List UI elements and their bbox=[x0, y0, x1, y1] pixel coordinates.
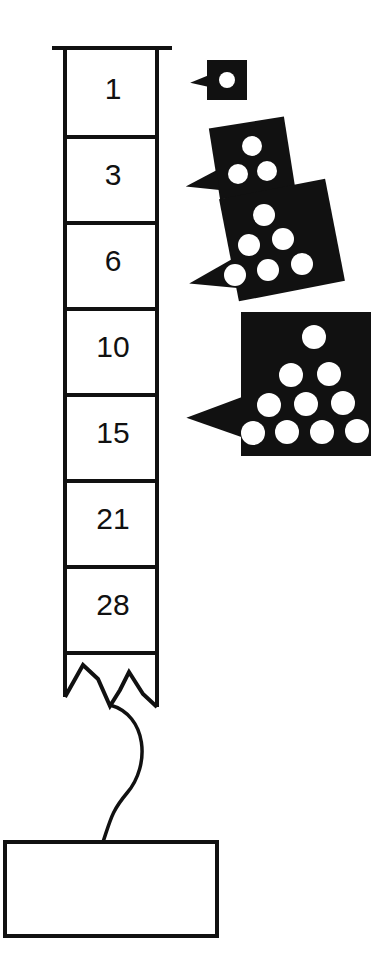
callout-dots-10-dot bbox=[257, 393, 281, 417]
callout-dots-10-dot bbox=[294, 392, 318, 416]
callout-dots-6-dot bbox=[291, 253, 313, 275]
callout-dots-10-dot bbox=[310, 420, 334, 444]
cell-value-3: 3 bbox=[105, 158, 122, 191]
callout-dots-10-dot bbox=[302, 325, 326, 349]
column-torn-edge bbox=[65, 665, 157, 707]
cell-value-21: 21 bbox=[96, 502, 129, 535]
callout-dots-10-dot bbox=[275, 420, 299, 444]
curved-connector bbox=[103, 705, 142, 842]
callout-dots-1-tail bbox=[190, 76, 208, 87]
callout-dots-6-dot bbox=[253, 204, 275, 226]
triangular-numbers-diagram: 13610152128 bbox=[0, 0, 379, 970]
callout-dots-10-dot bbox=[317, 362, 341, 386]
callout-dots-10-dot bbox=[331, 391, 355, 415]
callout-dots-3-dot bbox=[257, 161, 277, 181]
callout-dots-3-tail bbox=[184, 170, 220, 195]
diagram-canvas: 13610152128 bbox=[0, 0, 379, 970]
callout-dots-1 bbox=[190, 60, 247, 100]
callout-dots-1-dot bbox=[219, 72, 235, 88]
callout-dots-6-dot bbox=[224, 264, 246, 286]
callout-dots-3-dot bbox=[242, 136, 262, 156]
cell-value-1: 1 bbox=[105, 72, 122, 105]
callout-dots-10-tail bbox=[186, 397, 242, 437]
cell-value-28: 28 bbox=[96, 588, 129, 621]
callout-dots-10-dot bbox=[241, 421, 265, 445]
bottom-empty-box bbox=[5, 842, 217, 936]
callout-dots-6-dot bbox=[238, 234, 260, 256]
callout-dots-6 bbox=[175, 179, 345, 310]
cell-value-6: 6 bbox=[105, 244, 122, 277]
callout-dots-6-dot bbox=[272, 228, 294, 250]
cell-value-10: 10 bbox=[96, 330, 129, 363]
callout-dots-10-dot bbox=[279, 363, 303, 387]
callout-dots-3-dot bbox=[228, 164, 248, 184]
callout-dots-10 bbox=[186, 312, 371, 456]
number-column: 13610152128 bbox=[52, 48, 172, 707]
cell-value-15: 15 bbox=[96, 416, 129, 449]
callout-dots-6-dot bbox=[257, 259, 279, 281]
callout-dots-10-dot bbox=[345, 419, 369, 443]
